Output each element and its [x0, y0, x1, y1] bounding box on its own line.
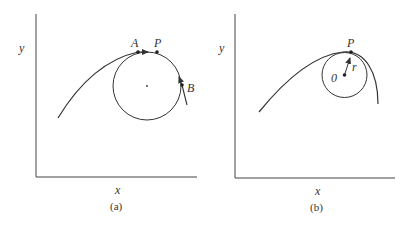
label-P-a: P [153, 36, 162, 50]
label-B: B [187, 81, 195, 95]
label-r: r [352, 60, 357, 74]
radius-vector [345, 58, 351, 75]
panel-a: y x (a) A P B [18, 14, 197, 213]
caption-a: (a) [110, 200, 123, 213]
point-p-a [155, 50, 159, 54]
y-axis-label-a: y [18, 41, 25, 55]
caption-b: (b) [310, 201, 323, 214]
point-p-b [349, 50, 353, 54]
curve-a [58, 52, 138, 118]
axes-a [36, 14, 197, 177]
label-O: 0 [331, 71, 337, 85]
curve-b [259, 52, 378, 112]
center-o [343, 73, 347, 77]
figure: y x (a) A P B y x (b) P 0 r [0, 0, 410, 226]
x-axis-label-a: x [114, 183, 121, 197]
y-axis-label-b: y [218, 41, 225, 55]
x-axis-label-b: x [314, 184, 321, 198]
point-a [136, 50, 140, 54]
label-P-b: P [346, 36, 355, 50]
panel-b: y x (b) P 0 r [218, 14, 395, 214]
point-b [180, 83, 184, 87]
axes-b [235, 14, 395, 178]
center-dot-a [146, 85, 148, 87]
label-A: A [130, 36, 139, 50]
